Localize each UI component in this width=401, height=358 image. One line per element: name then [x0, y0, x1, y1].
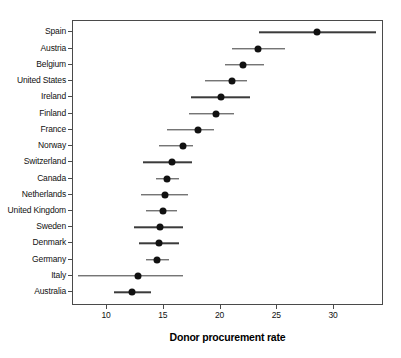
- y-axis-label-germany: Germany: [0, 254, 66, 263]
- y-axis-label-australia: Australia: [0, 287, 66, 296]
- data-point-norway: [180, 143, 187, 150]
- y-axis-label-italy: Italy: [0, 270, 66, 279]
- y-axis-label-netherlands: Netherlands: [0, 189, 66, 198]
- data-point-germany: [153, 256, 160, 263]
- y-axis-label-austria: Austria: [0, 43, 66, 52]
- y-axis-label-belgium: Belgium: [0, 59, 66, 68]
- data-point-canada: [164, 175, 171, 182]
- data-point-united-states: [228, 78, 235, 85]
- data-point-ireland: [217, 94, 224, 101]
- error-bar-united-states: [205, 80, 247, 81]
- y-axis-label-finland: Finland: [0, 108, 66, 117]
- data-point-denmark: [156, 240, 163, 247]
- x-axis-tick-label: 20: [208, 310, 232, 320]
- y-axis-label-sweden: Sweden: [0, 222, 66, 231]
- data-point-finland: [213, 110, 220, 117]
- data-point-united-kingdom: [159, 208, 166, 215]
- data-point-netherlands: [161, 191, 168, 198]
- error-bar-italy: [78, 275, 184, 276]
- y-axis-label-norway: Norway: [0, 141, 66, 150]
- x-axis-tick: [220, 305, 221, 309]
- x-axis-tick-label: 30: [321, 310, 345, 320]
- data-point-switzerland: [168, 159, 175, 166]
- y-axis-label-denmark: Denmark: [0, 238, 66, 247]
- error-bar-norway: [159, 145, 193, 146]
- y-axis-label-united-states: United States: [0, 76, 66, 85]
- y-axis-label-ireland: Ireland: [0, 92, 66, 101]
- data-point-belgium: [240, 61, 247, 68]
- x-axis-tick: [106, 305, 107, 309]
- error-bar-france: [167, 129, 214, 130]
- x-axis-tick: [333, 305, 334, 309]
- data-point-australia: [129, 289, 136, 296]
- y-axis-label-switzerland: Switzerland: [0, 157, 66, 166]
- x-axis-title: Donor procurement rate: [72, 331, 383, 343]
- data-point-austria: [255, 45, 262, 52]
- x-axis-tick-label: 25: [264, 310, 288, 320]
- x-axis-tick: [276, 305, 277, 309]
- error-bar-finland: [189, 113, 234, 114]
- x-axis-tick: [163, 305, 164, 309]
- y-axis-label-united-kingdom: United Kingdom: [0, 206, 66, 215]
- data-point-italy: [134, 272, 141, 279]
- data-point-spain: [314, 29, 321, 36]
- y-axis-label-canada: Canada: [0, 173, 66, 182]
- data-point-france: [194, 126, 201, 133]
- data-point-sweden: [157, 224, 164, 231]
- y-axis-label-france: France: [0, 124, 66, 133]
- donor-procurement-rate-chart: SpainAustriaBelgiumUnited StatesIrelandF…: [0, 0, 401, 358]
- plot-area: [72, 20, 383, 305]
- x-axis-tick-label: 10: [94, 310, 118, 320]
- x-axis-tick-label: 15: [151, 310, 175, 320]
- y-axis-label-spain: Spain: [0, 27, 66, 36]
